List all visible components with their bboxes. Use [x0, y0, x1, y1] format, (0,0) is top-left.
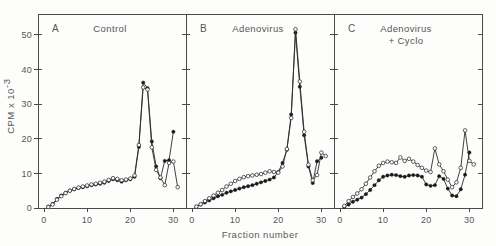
data-point-open — [437, 163, 441, 167]
y-tick-label: 0 — [27, 203, 32, 213]
data-point-open — [128, 177, 132, 181]
data-point-open — [116, 177, 120, 181]
data-point-open — [176, 185, 180, 189]
data-point-open — [381, 161, 385, 165]
panel-subtitle-c: + Cyclo — [389, 35, 424, 46]
data-point-filled — [255, 182, 258, 185]
series-line-a-filled — [48, 83, 173, 207]
data-point-filled — [351, 200, 354, 203]
data-point-open — [107, 178, 111, 182]
x-tick-label: 20 — [421, 215, 432, 225]
data-point-open — [364, 182, 368, 186]
data-point-open — [120, 178, 124, 182]
series-line-a-open — [48, 87, 177, 207]
data-point-open — [94, 182, 98, 186]
data-point-open — [103, 180, 107, 184]
data-point-open — [90, 183, 94, 187]
series-line-b-filled — [196, 33, 321, 207]
y-tick-label: 20 — [21, 134, 32, 144]
data-point-open — [207, 197, 211, 201]
data-point-open — [307, 163, 311, 167]
data-point-open — [199, 202, 203, 206]
x-axis-title: Fraction number — [222, 229, 299, 240]
data-point-open — [154, 168, 158, 172]
data-point-open — [373, 169, 377, 173]
data-point-open — [355, 192, 359, 196]
data-point-open — [472, 163, 476, 167]
data-point-open — [320, 151, 324, 155]
y-axis-title: CPM x 10-3 — [1, 78, 16, 133]
data-point-filled — [394, 173, 397, 176]
x-tick-label: 0 — [189, 215, 194, 225]
data-point-filled — [420, 175, 423, 178]
data-point-filled — [463, 173, 466, 176]
data-point-open — [351, 195, 355, 199]
data-point-open — [399, 156, 403, 160]
data-point-open — [446, 178, 450, 182]
data-point-open — [59, 194, 63, 198]
data-point-filled — [399, 174, 402, 177]
data-point-filled — [163, 159, 166, 162]
data-point-filled — [225, 191, 228, 194]
data-point-open — [98, 181, 102, 185]
data-point-filled — [377, 179, 380, 182]
data-point-open — [468, 159, 472, 163]
data-point-filled — [220, 193, 223, 196]
x-tick-label: 30 — [464, 215, 475, 225]
data-point-open — [150, 146, 154, 150]
data-point-open — [416, 163, 420, 167]
data-point-open — [85, 184, 89, 188]
series-line-c-open — [344, 130, 473, 206]
data-point-filled — [446, 187, 449, 190]
data-point-open — [268, 169, 272, 173]
data-point-open — [311, 178, 315, 182]
data-point-filled — [425, 183, 428, 186]
panel-title-a: Control — [93, 23, 126, 34]
data-point-open — [450, 185, 454, 189]
data-point-open — [429, 170, 433, 174]
data-point-open — [442, 169, 446, 173]
x-tick-label: 10 — [378, 215, 389, 225]
y-tick-label: 30 — [21, 99, 32, 109]
data-point-open — [225, 185, 229, 189]
data-point-open — [324, 154, 328, 158]
data-point-open — [133, 174, 137, 178]
x-tick-label: 20 — [273, 215, 284, 225]
data-point-open — [216, 191, 220, 195]
data-point-open — [229, 182, 233, 186]
data-point-open — [167, 161, 171, 165]
data-point-filled — [259, 181, 262, 184]
data-point-filled — [216, 195, 219, 198]
data-point-open — [394, 161, 398, 165]
data-point-filled — [272, 176, 275, 179]
data-point-open — [55, 198, 59, 202]
data-point-filled — [364, 192, 367, 195]
data-point-filled — [407, 174, 410, 177]
data-point-open — [455, 181, 459, 185]
panel-letter-a: A — [52, 23, 59, 34]
data-point-open — [124, 178, 128, 182]
data-point-open — [233, 179, 237, 183]
data-point-open — [203, 199, 207, 203]
data-point-open — [407, 157, 411, 161]
y-tick-label: 50 — [21, 30, 32, 40]
data-point-filled — [315, 160, 318, 163]
data-point-filled — [455, 195, 458, 198]
figure-container: 010203040500102030AControl0102030BAdenov… — [0, 0, 496, 246]
data-point-filled — [403, 175, 406, 178]
data-point-open — [386, 160, 390, 164]
data-point-filled — [373, 183, 376, 186]
data-point-filled — [390, 173, 393, 176]
data-point-filled — [347, 203, 350, 206]
x-tick-label: 30 — [168, 215, 179, 225]
x-tick-label: 0 — [337, 215, 342, 225]
data-point-open — [238, 177, 242, 181]
data-point-open — [315, 173, 319, 177]
data-point-open — [259, 172, 263, 176]
data-point-filled — [242, 186, 245, 189]
data-point-open — [360, 187, 364, 191]
data-point-open — [51, 203, 55, 207]
data-point-open — [159, 176, 163, 180]
data-point-filled — [433, 183, 436, 186]
data-point-open — [412, 160, 416, 164]
